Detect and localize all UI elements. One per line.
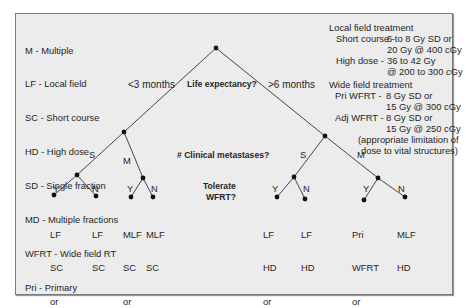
question-tolerate-wfrt-2: WFRT? xyxy=(206,192,236,203)
adj-wfrt-value-2: 15 Gy @ 250 cGy xyxy=(386,123,461,134)
branch-label-s-left: S xyxy=(89,149,95,160)
branch-label-less-3-months: <3 months xyxy=(128,79,175,90)
branch-label-y: Y xyxy=(272,183,278,194)
adj-wfrt-label: Adj WFRT - xyxy=(335,112,384,123)
high-dose-value-1: 36 to 42 Gy xyxy=(387,55,435,66)
high-dose-value-2: @ 200 to 300 cGy xyxy=(387,66,463,77)
short-course-value-2: 20 Gy @ 400 cGy xyxy=(387,44,462,55)
leaf-outcome-short-single: LF SC or Pri WFRT xyxy=(50,206,77,308)
branch-label-n: N xyxy=(303,183,310,194)
question-life-expectancy: Life expectancy? xyxy=(187,79,257,90)
legend-item: M - Multiple xyxy=(25,45,118,56)
branch-label-y: Y xyxy=(127,183,133,194)
leaf-outcome-short-single-no: LF SC xyxy=(92,206,105,285)
branch-label-m-left: M xyxy=(123,155,131,166)
short-course-value-1: 6 to 8 Gy SD or xyxy=(387,33,452,44)
branch-label-n: N xyxy=(92,183,99,194)
pri-wfrt-value-1: 8 Gy SD or xyxy=(386,90,432,101)
leaf-outcome-long-multiple-no: MLF HD xyxy=(397,206,416,285)
branch-label-m-right: M xyxy=(357,149,365,160)
pri-wfrt-label: Pri WFRT - xyxy=(335,90,382,101)
adj-wfrt-value-1: 8 Gy SD or xyxy=(386,112,432,123)
branch-label-y: Y xyxy=(53,183,59,194)
pri-wfrt-value-2: 15 Gy @ 300 cGy xyxy=(386,101,461,112)
dose-limitation-note-1: (appropriate limitation of xyxy=(358,134,459,145)
leaf-outcome-long-single: LF HD or LF HD + Adj WFRT or Pri WFRT xyxy=(263,206,306,308)
local-field-title: Local field treatment xyxy=(329,22,413,33)
dose-limitation-note-2: dose to vital structures) xyxy=(361,145,458,156)
branch-label-y: Y xyxy=(363,183,369,194)
branch-label-n: N xyxy=(151,183,158,194)
leaf-outcome-short-multiple-no: MLF SC xyxy=(146,206,165,285)
wide-field-title: Wide field treatment xyxy=(329,79,412,90)
question-tolerate-wfrt-1: Tolerate xyxy=(203,181,236,192)
legend-item: HD - High dose xyxy=(25,146,118,157)
root-node xyxy=(214,46,219,51)
leaf-outcome-long-single-no: LF HD xyxy=(301,206,315,285)
question-clinical-metastases: # Clinical metastases? xyxy=(177,150,269,161)
high-dose-label: High dose - xyxy=(336,55,384,66)
legend-item: SC - Short course xyxy=(25,112,118,123)
branch-label-more-6-months: >6 months xyxy=(268,79,315,90)
legend-item: LF - Local field xyxy=(25,78,118,89)
leaf-outcome-long-multiple: Pri WFRT or MLF-HD + Adj WFRT xyxy=(352,206,395,308)
branch-label-s-right: S xyxy=(300,149,306,160)
branch-label-n: N xyxy=(398,183,405,194)
legend-item: SD - Single fraction xyxy=(25,180,118,191)
